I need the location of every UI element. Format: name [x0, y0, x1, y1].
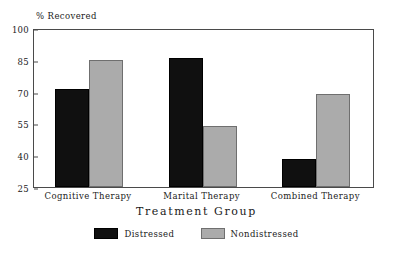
- legend-swatch-nondistressed: [201, 228, 225, 239]
- x-tick-label: Cognitive Therapy: [44, 191, 131, 201]
- y-tick-mark: [34, 157, 38, 158]
- y-tick-mark: [34, 93, 38, 94]
- bar-nondistressed-marital: [203, 126, 237, 187]
- legend-swatch-distressed: [94, 228, 118, 239]
- y-tick-label: 85: [18, 57, 34, 67]
- y-tick-mark: [34, 125, 38, 126]
- bar-distressed-combined: [282, 159, 316, 187]
- chart-legend: Distressed Nondistressed: [0, 228, 393, 239]
- y-tick-label: 55: [18, 120, 34, 130]
- x-tick-label: Combined Therapy: [271, 191, 360, 201]
- y-tick-mark: [34, 30, 38, 31]
- x-tick-label: Marital Therapy: [163, 191, 240, 201]
- y-tick-mark: [34, 189, 38, 190]
- legend-label-distressed: Distressed: [124, 229, 174, 239]
- x-axis-title: Treatment Group: [0, 205, 393, 218]
- bar-nondistressed-cognitive: [89, 60, 123, 187]
- y-tick-label: 40: [18, 152, 34, 162]
- y-tick-label: 25: [18, 184, 34, 194]
- y-tick-label: 70: [18, 89, 34, 99]
- y-tick-label: 100: [12, 25, 34, 35]
- bar-distressed-cognitive: [55, 89, 89, 187]
- y-axis-title: % Recovered: [36, 11, 97, 21]
- plot-area: 1008570554025: [33, 29, 374, 188]
- y-tick-mark: [34, 61, 38, 62]
- bar-chart-figure: % Recovered 1008570554025 Treatment Grou…: [0, 0, 393, 259]
- legend-item-distressed: Distressed: [94, 228, 174, 239]
- bar-nondistressed-combined: [316, 94, 350, 187]
- legend-label-nondistressed: Nondistressed: [231, 229, 299, 239]
- legend-item-nondistressed: Nondistressed: [201, 228, 299, 239]
- bar-distressed-marital: [169, 58, 203, 187]
